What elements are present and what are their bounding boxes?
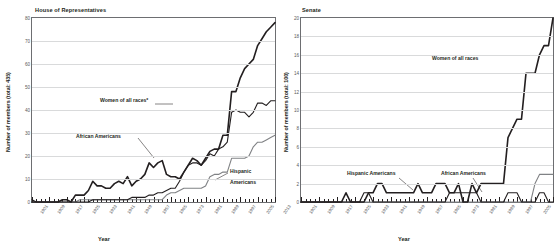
y-tick-label: 0 bbox=[296, 200, 299, 205]
x-tick-label: 1957 bbox=[434, 204, 444, 215]
x-tick-label: 1925 bbox=[91, 204, 101, 215]
x-tick-label: 1957 bbox=[161, 204, 171, 215]
y-tick-label: 40 bbox=[25, 108, 30, 113]
gridline bbox=[32, 156, 275, 157]
senate-annotation-hispanic-americans: Hispanic Americans bbox=[347, 170, 396, 177]
y-tick-label: 70 bbox=[25, 39, 30, 44]
x-tick-label: 1933 bbox=[380, 204, 390, 215]
senate-y-axis-label: Number of members (total: 100) bbox=[283, 72, 289, 152]
gridline bbox=[32, 87, 275, 88]
x-tick-label: 1941 bbox=[398, 204, 408, 215]
house-y-axis-label: Number of members (total: 435) bbox=[5, 72, 11, 152]
x-tick-label: 1941 bbox=[126, 204, 136, 215]
gridline bbox=[32, 64, 275, 65]
x-tick-label: 1925 bbox=[362, 204, 372, 215]
y-tick-label: 18 bbox=[294, 34, 299, 39]
x-tick-label: 1973 bbox=[195, 204, 205, 215]
senate-plot-area: 1901190919171925193319411949195719651973… bbox=[300, 17, 554, 203]
senate-annotation-african-americans: African Americans bbox=[441, 170, 486, 177]
gridline bbox=[301, 128, 553, 129]
gridline bbox=[301, 92, 553, 93]
y-tick-label: 10 bbox=[25, 177, 30, 182]
y-tick-label: 10 bbox=[294, 108, 299, 113]
x-tick-label: 2005 bbox=[265, 204, 275, 215]
y-tick-label: 2 bbox=[296, 181, 299, 186]
senate-chart-title: Senate bbox=[302, 7, 321, 13]
y-tick-label: 16 bbox=[294, 52, 299, 57]
x-tick-label: 1997 bbox=[247, 204, 257, 215]
house-annotation-hispanic-1: Hispanic bbox=[230, 168, 251, 175]
gridline bbox=[32, 41, 275, 42]
house-x-axis-label: Year bbox=[98, 236, 110, 242]
y-tick-label: 50 bbox=[25, 85, 30, 90]
x-tick-label: 2005 bbox=[542, 204, 552, 215]
y-tick-label: 60 bbox=[25, 62, 30, 67]
x-tick-label: 1997 bbox=[524, 204, 534, 215]
house-annotation-women: Women of all races* bbox=[100, 97, 148, 104]
chart-page: House of Representatives Number of membe… bbox=[0, 0, 559, 247]
gridline bbox=[301, 110, 553, 111]
x-tick-label: 1917 bbox=[344, 204, 354, 215]
house-chart-title: House of Representatives bbox=[35, 7, 106, 13]
house-annotation-hispanic-2: Americans bbox=[230, 179, 256, 186]
house-chart-panel: House of Representatives Number of membe… bbox=[0, 0, 279, 247]
senate-annotation-women: Women of all races bbox=[432, 55, 478, 62]
x-tick-mark bbox=[275, 197, 276, 202]
house-line-african-americans bbox=[32, 101, 275, 202]
y-tick-label: 12 bbox=[294, 89, 299, 94]
gridline bbox=[32, 110, 275, 111]
y-tick-label: 4 bbox=[296, 163, 299, 168]
y-tick-label: 6 bbox=[296, 144, 299, 149]
y-tick-label: 20 bbox=[294, 16, 299, 21]
x-tick-label: 1949 bbox=[143, 204, 153, 215]
y-tick-label: 30 bbox=[25, 131, 30, 136]
x-tick-label: 1901 bbox=[308, 204, 318, 215]
x-tick-label: 1965 bbox=[178, 204, 188, 215]
x-tick-label: 1989 bbox=[230, 204, 240, 215]
gridline bbox=[301, 55, 553, 56]
senate-x-tick-labels: 1901190919171925193319411949195719651973… bbox=[301, 202, 553, 232]
x-tick-label: 1989 bbox=[506, 204, 516, 215]
gridline bbox=[301, 184, 553, 185]
gridline bbox=[32, 133, 275, 134]
x-tick-label: 1917 bbox=[74, 204, 84, 215]
y-tick-label: 8 bbox=[296, 126, 299, 131]
x-tick-label: 1909 bbox=[326, 204, 336, 215]
house-line-women-all-races bbox=[32, 23, 275, 202]
senate-x-axis-label: Year bbox=[398, 236, 410, 242]
x-tick-label: 1901 bbox=[39, 204, 49, 215]
gridline bbox=[301, 73, 553, 74]
x-tick-label: 1949 bbox=[416, 204, 426, 215]
house-x-tick-labels: 1901190919171925193319411949195719651973… bbox=[32, 202, 275, 232]
y-tick-label: 14 bbox=[294, 71, 299, 76]
y-tick-label: 20 bbox=[25, 154, 30, 159]
house-annotation-african-americans: African Americans bbox=[76, 133, 121, 140]
gridline bbox=[301, 147, 553, 148]
senate-line-african-americans bbox=[301, 193, 553, 202]
x-tick-label: 1933 bbox=[109, 204, 119, 215]
x-tick-label: 1981 bbox=[213, 204, 223, 215]
senate-chart-panel: Senate Number of members (total: 100) Ye… bbox=[280, 0, 559, 247]
x-tick-label: 1909 bbox=[57, 204, 67, 215]
gridline bbox=[32, 179, 275, 180]
gridline bbox=[301, 165, 553, 166]
x-tick-label: 1973 bbox=[470, 204, 480, 215]
x-tick-label: 1981 bbox=[488, 204, 498, 215]
y-tick-label: 80 bbox=[25, 16, 30, 21]
house-plot-area: 1901190919171925193319411949195719651973… bbox=[31, 17, 276, 203]
senate-line-hispanic-americans bbox=[301, 174, 553, 202]
gridline bbox=[301, 36, 553, 37]
x-tick-mark bbox=[553, 197, 554, 202]
y-tick-label: 0 bbox=[27, 200, 30, 205]
x-tick-label: 1965 bbox=[452, 204, 462, 215]
